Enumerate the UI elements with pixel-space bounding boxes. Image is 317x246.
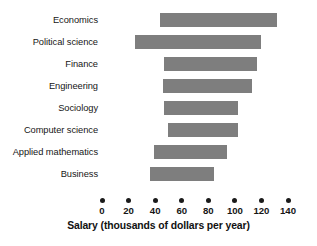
category-label: Economics (0, 9, 98, 31)
axis-tick-dot (286, 198, 291, 203)
bar (164, 57, 257, 71)
axis-tick-dot (153, 198, 158, 203)
bar (160, 13, 277, 27)
bar-row: Economics (0, 9, 317, 31)
x-axis-title: Salary (thousands of dollars per year) (0, 220, 317, 231)
bar-row: Finance (0, 53, 317, 75)
category-label: Engineering (0, 75, 98, 97)
axis-tick-dot (232, 198, 237, 203)
category-label: Political science (0, 31, 98, 53)
bar-row: Computer science (0, 119, 317, 141)
category-label: Computer science (0, 119, 98, 141)
bar (150, 167, 214, 181)
axis-tick-label: 140 (268, 205, 308, 216)
bar-row: Engineering (0, 75, 317, 97)
axis-tick-dot (100, 198, 105, 203)
x-axis: Salary (thousands of dollars per year) 0… (0, 196, 317, 246)
axis-tick-dot (206, 198, 211, 203)
bar-row: Applied mathematics (0, 141, 317, 163)
category-label: Sociology (0, 97, 98, 119)
axis-tick-dot (259, 198, 264, 203)
bar-row: Sociology (0, 97, 317, 119)
bar-row: Political science (0, 31, 317, 53)
bar (164, 101, 237, 115)
axis-tick-dot (179, 198, 184, 203)
bar (163, 79, 252, 93)
salary-range-chart: EconomicsPolitical scienceFinanceEnginee… (0, 0, 317, 246)
category-label: Business (0, 163, 98, 185)
axis-tick-dot (126, 198, 131, 203)
plot-area: EconomicsPolitical scienceFinanceEnginee… (0, 0, 317, 196)
bar (135, 35, 261, 49)
category-label: Finance (0, 53, 98, 75)
bar-row: Business (0, 163, 317, 185)
bar (168, 123, 237, 137)
bar (154, 145, 227, 159)
category-label: Applied mathematics (0, 141, 98, 163)
